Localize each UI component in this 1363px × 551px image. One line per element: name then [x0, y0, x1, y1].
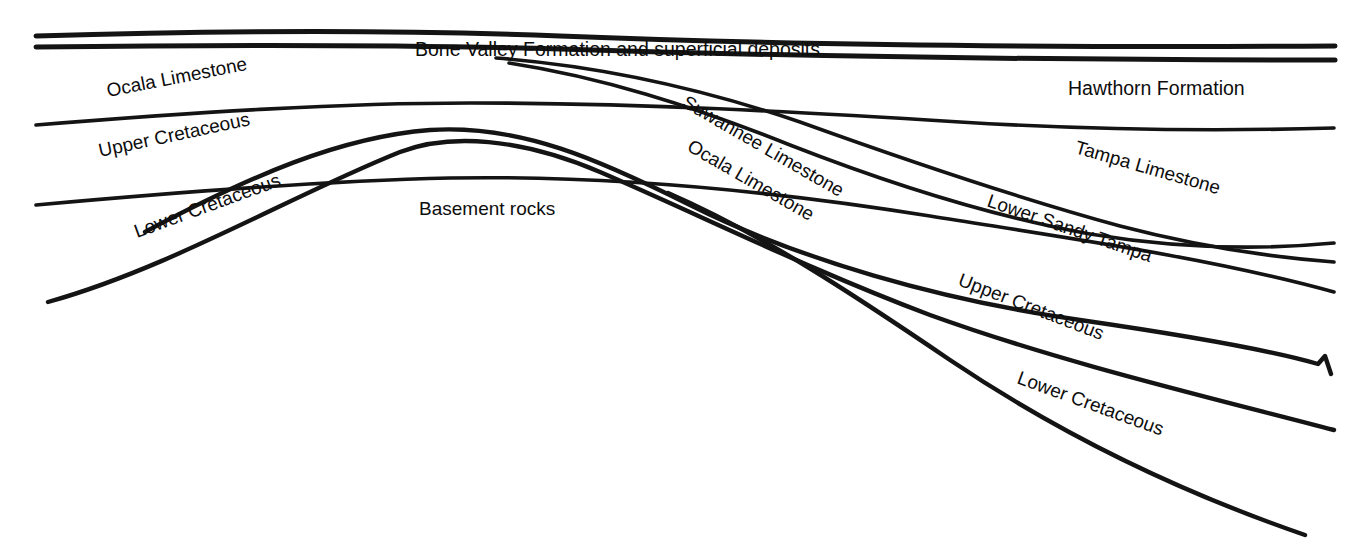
cross-section-canvas: Bone Valley Formation and superficial de… [0, 0, 1363, 551]
label-hawthorn-formation: Hawthorn Formation [1068, 77, 1245, 99]
label-basement-rocks: Basement rocks [419, 198, 555, 219]
geologic-cross-section-figure: Bone Valley Formation and superficial de… [0, 0, 1363, 551]
label-bone-valley-formation: Bone Valley Formation and superficial de… [415, 38, 820, 60]
